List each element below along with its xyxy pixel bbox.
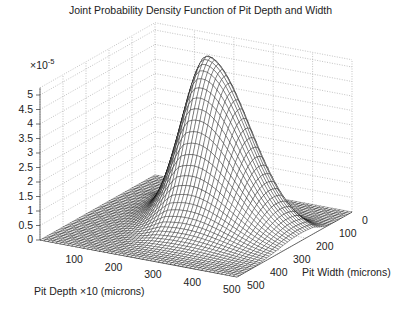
z-tick-label: 3	[27, 146, 33, 158]
mesh-surface	[40, 56, 352, 277]
surface-plot	[0, 0, 401, 311]
x-tick-label: 200	[105, 261, 123, 273]
x-tick-label: 500	[223, 283, 241, 295]
y-axis-label: Pit Width (microns)	[302, 266, 391, 278]
chart-title: Joint Probability Density Function of Pi…	[0, 4, 401, 16]
y-tick-label: 500	[247, 279, 265, 291]
z-tick-label: 2	[27, 175, 33, 187]
z-tick-label: 2.5	[18, 161, 33, 173]
y-tick-label: 300	[293, 253, 311, 265]
y-tick-label: 100	[339, 227, 357, 239]
z-exponent-label: ×10-5	[30, 57, 54, 71]
z-multiplier-base: ×10	[30, 59, 48, 71]
z-tick-label: 5	[27, 88, 33, 100]
z-tick-label: 3.5	[18, 132, 33, 144]
x-tick-label: 100	[65, 253, 83, 265]
z-tick-label: 1.5	[18, 190, 33, 202]
z-tick-label: 1	[27, 204, 33, 216]
y-tick-label: 400	[270, 266, 288, 278]
y-tick-label: 0	[362, 214, 368, 226]
z-tick-label: 4.5	[18, 103, 33, 115]
x-axis-label: Pit Depth ×10 (microns)	[34, 285, 145, 297]
z-tick-label: 0.5	[18, 219, 33, 231]
z-multiplier-exponent: -5	[48, 57, 55, 66]
x-tick-label: 400	[184, 276, 202, 288]
z-tick-label: 4	[27, 117, 33, 129]
z-tick-label: 0	[27, 233, 33, 245]
x-tick-label: 300	[144, 268, 162, 280]
y-tick-label: 200	[316, 240, 334, 252]
